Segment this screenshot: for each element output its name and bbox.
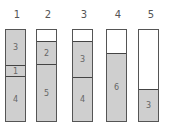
column-2: 2 5 [36,29,57,122]
column-label-5: 5 [141,9,161,20]
segment: 3 [73,41,92,77]
segment: 3 [6,30,25,65]
segment: 4 [73,77,92,121]
column-5: 3 [138,29,159,122]
segment: 3 [139,89,158,121]
column-1: 3 1 4 [5,29,26,122]
column-label-2: 2 [38,9,58,20]
segment: 2 [37,41,56,64]
column-label-4: 4 [108,9,128,20]
segment: 4 [6,76,25,121]
column-label-1: 1 [7,9,27,20]
segment: 6 [107,53,126,121]
segment-empty [107,30,126,53]
column-3: 3 4 [72,29,93,122]
segment: 5 [37,64,56,121]
column-4: 6 [106,29,127,122]
segment-empty [139,30,158,89]
segment: 1 [6,65,25,76]
segment-empty [37,30,56,41]
segment-empty [73,30,92,41]
column-label-3: 3 [74,9,94,20]
